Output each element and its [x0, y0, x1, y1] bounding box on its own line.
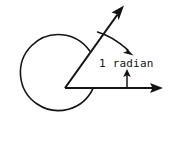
terminal-side-ray: [65, 15, 118, 89]
radian-diagram: 1 radian: [0, 0, 172, 152]
circle-arc: [20, 35, 93, 111]
terminal-side-arrowhead-icon: [112, 6, 125, 21]
radian-figure-svg: 1 radian: [0, 0, 172, 152]
angle-label: 1 radian: [99, 57, 154, 70]
